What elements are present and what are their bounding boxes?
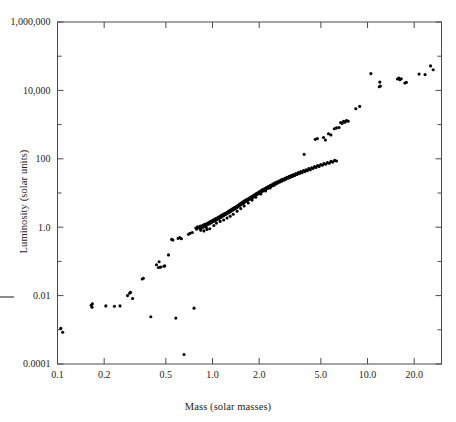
data-point bbox=[251, 199, 254, 202]
data-point bbox=[104, 304, 107, 307]
data-point bbox=[222, 218, 225, 221]
data-point bbox=[424, 73, 427, 76]
data-point bbox=[418, 73, 421, 76]
data-point bbox=[347, 120, 350, 123]
data-point bbox=[338, 126, 341, 129]
data-point bbox=[219, 220, 222, 223]
data-point bbox=[202, 229, 205, 232]
data-point bbox=[254, 196, 257, 199]
data-point bbox=[236, 210, 239, 213]
x-axis-title: Mass (solar masses) bbox=[0, 401, 456, 412]
y-axis-title: Luminosity (solar units) bbox=[18, 117, 29, 287]
plot-frame bbox=[58, 22, 442, 364]
x-tick-label-0.2: 0.2 bbox=[98, 369, 111, 380]
data-point bbox=[316, 137, 319, 140]
data-point bbox=[405, 81, 408, 84]
plot-canvas: 0.10.20.51.02.05.010.020.00.00010.011.01… bbox=[0, 0, 456, 422]
data-point bbox=[243, 204, 246, 207]
data-point bbox=[303, 153, 306, 156]
y-tick-label-1,000,000: 1,000,000 bbox=[11, 16, 51, 27]
scatter-series bbox=[59, 64, 434, 356]
data-point bbox=[91, 302, 94, 305]
data-point bbox=[432, 68, 435, 71]
data-point bbox=[61, 331, 64, 334]
data-point bbox=[59, 327, 62, 330]
data-point bbox=[149, 315, 152, 318]
data-point bbox=[369, 72, 372, 75]
data-point bbox=[159, 266, 162, 269]
data-point bbox=[212, 224, 215, 227]
data-point bbox=[322, 136, 325, 139]
data-point bbox=[199, 229, 202, 232]
data-point bbox=[335, 159, 338, 162]
data-point bbox=[324, 138, 327, 141]
data-point bbox=[229, 215, 232, 218]
data-point bbox=[354, 107, 357, 110]
data-point bbox=[429, 64, 432, 67]
data-point bbox=[180, 237, 183, 240]
y-tick-label-0.0001: 0.0001 bbox=[23, 358, 51, 369]
x-tick-label-5.0: 5.0 bbox=[315, 369, 328, 380]
data-point bbox=[400, 77, 403, 80]
y-tick-label-1.0: 1.0 bbox=[38, 222, 51, 233]
data-point bbox=[142, 277, 145, 280]
data-point bbox=[335, 126, 338, 129]
data-point bbox=[273, 184, 276, 187]
data-point bbox=[280, 178, 283, 181]
data-point bbox=[131, 297, 134, 300]
data-point bbox=[358, 105, 361, 108]
y-tick-label-100: 100 bbox=[36, 153, 51, 164]
data-point bbox=[247, 201, 250, 204]
y-tick-label-10,000: 10,000 bbox=[23, 85, 51, 96]
data-point bbox=[329, 133, 332, 136]
data-point bbox=[208, 227, 211, 230]
data-point bbox=[113, 305, 116, 308]
data-point bbox=[174, 317, 177, 320]
data-point bbox=[204, 225, 207, 228]
data-point bbox=[118, 304, 121, 307]
data-point bbox=[225, 217, 228, 220]
data-point bbox=[259, 192, 262, 195]
data-point bbox=[268, 186, 271, 189]
data-point bbox=[232, 213, 235, 216]
data-point bbox=[158, 260, 161, 263]
x-tick-label-1.0: 1.0 bbox=[206, 369, 219, 380]
x-tick-label-10.0: 10.0 bbox=[359, 369, 377, 380]
data-point bbox=[205, 228, 208, 231]
x-tick-label-0.1: 0.1 bbox=[51, 369, 64, 380]
data-point bbox=[129, 291, 132, 294]
x-tick-label-20.0: 20.0 bbox=[405, 369, 423, 380]
data-point bbox=[182, 353, 185, 356]
data-point bbox=[378, 81, 381, 84]
mass-luminosity-scatter-figure: 0.10.20.51.02.05.010.020.00.00010.011.01… bbox=[0, 0, 456, 422]
data-point bbox=[126, 294, 129, 297]
data-point bbox=[167, 253, 170, 256]
data-point bbox=[90, 306, 93, 309]
data-point bbox=[239, 207, 242, 210]
y-tick-label-0.01: 0.01 bbox=[33, 290, 51, 301]
x-tick-label-0.5: 0.5 bbox=[160, 369, 173, 380]
x-tick-label-2.0: 2.0 bbox=[253, 369, 266, 380]
data-point bbox=[155, 263, 158, 266]
data-point bbox=[171, 239, 174, 242]
data-point bbox=[277, 181, 280, 184]
data-point bbox=[191, 231, 194, 234]
data-point bbox=[192, 307, 195, 310]
data-point bbox=[215, 222, 218, 225]
data-point bbox=[264, 189, 267, 192]
data-point bbox=[379, 84, 382, 87]
data-point bbox=[163, 264, 166, 267]
